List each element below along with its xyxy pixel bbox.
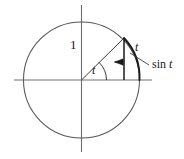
angle-label: t [92, 64, 95, 76]
radius-label: 1 [70, 38, 77, 51]
figure-canvas [0, 0, 184, 159]
sine-label: sin t [152, 58, 172, 70]
unit-circle-figure: 1 t t sin t [0, 0, 184, 159]
sine-leader-line [130, 53, 149, 65]
angle-arc [99, 62, 107, 80]
sine-function-name: sin [152, 57, 169, 71]
arc-length-label: t [135, 41, 138, 53]
radius-line [82, 38, 125, 80]
sine-variable: t [169, 57, 172, 71]
